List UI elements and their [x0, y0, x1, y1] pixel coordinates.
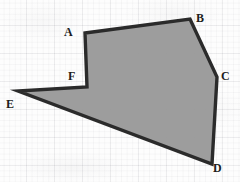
- vertex-label-e: E: [6, 98, 14, 110]
- vertex-label-c: C: [221, 70, 230, 82]
- vertex-label-b: B: [196, 12, 204, 24]
- vertex-label-f: F: [68, 70, 75, 82]
- vertex-label-d: D: [213, 162, 222, 174]
- geometry-figure: A B C D E F: [0, 0, 240, 182]
- vertex-label-a: A: [64, 26, 73, 38]
- polygon-canvas: [0, 0, 240, 182]
- hexagon-shape: [18, 19, 217, 164]
